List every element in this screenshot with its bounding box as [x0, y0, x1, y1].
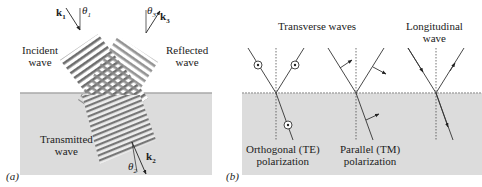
te-label: Orthogonal (TE)polarization [246, 143, 320, 167]
tm-label: Parallel (TM)polarization [340, 143, 400, 167]
transmitted-wave-label: Transmittedwave [40, 133, 93, 157]
k1-label: k1 [56, 6, 66, 23]
transverse-title: Transverse waves [278, 20, 356, 32]
theta3-label: θ3 [147, 4, 156, 21]
longitudinal-title: Longitudinalwave [406, 20, 463, 44]
k3-label: k3 [160, 10, 170, 27]
theta1-label: θ1 [82, 4, 91, 21]
k1-arrow [66, 8, 80, 30]
panel-a-tag: (a) [6, 170, 19, 182]
incident-wave-label: Incidentwave [22, 44, 58, 68]
theta2-label: θ2 [128, 160, 137, 177]
k2-label: k2 [146, 150, 156, 167]
panel-b-tag: (b) [226, 170, 239, 182]
reflected-wave-label: Reflectedwave [166, 44, 208, 68]
